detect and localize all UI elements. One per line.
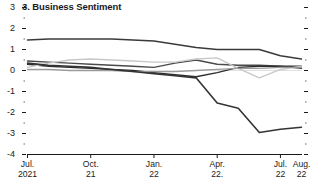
x-tick-label: Aug.22	[293, 159, 311, 179]
x-tick-label-month: Aug.	[293, 159, 311, 169]
x-tick-label-month: Oct.	[83, 159, 99, 169]
x-tick-label-month: Jul.	[18, 159, 37, 169]
series-line-series-1	[28, 39, 302, 59]
x-tick-label-year: 22	[146, 169, 162, 179]
x-tick-label-year: 2021	[18, 169, 37, 179]
x-tick-label-year: 21	[83, 169, 99, 179]
x-tick-label: Jul.22	[274, 159, 287, 179]
x-tick-label: Apr.22.	[210, 159, 225, 179]
x-tick-label-year: 22	[293, 169, 311, 179]
plot-area	[0, 0, 315, 185]
x-tick-label-month: Jan.	[146, 159, 162, 169]
x-tick-label: Jan.22	[146, 159, 162, 179]
x-tick-label-month: Jul.	[274, 159, 287, 169]
x-tick-label-month: Apr.	[210, 159, 225, 169]
x-tick-label-year: 22.	[210, 169, 225, 179]
x-tick-label: Oct.21	[83, 159, 99, 179]
x-tick-label: Jul.2021	[18, 159, 37, 179]
business-sentiment-chart: 3. Business Sentiment 3210-1-2-3-4 Jul.2…	[0, 0, 315, 185]
x-tick-label-year: 22	[274, 169, 287, 179]
